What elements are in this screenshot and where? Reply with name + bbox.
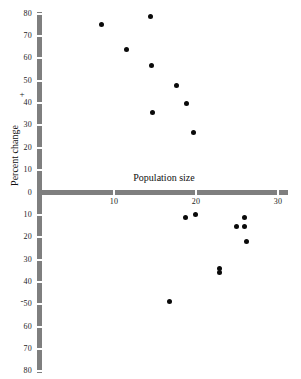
data-point xyxy=(242,215,247,220)
data-point xyxy=(217,270,222,275)
data-point xyxy=(148,14,153,19)
data-point xyxy=(234,224,239,229)
data-point xyxy=(193,212,198,217)
data-point xyxy=(167,299,172,304)
data-point xyxy=(99,22,104,27)
data-point xyxy=(242,224,247,229)
data-point xyxy=(174,83,179,88)
data-point xyxy=(149,63,154,68)
data-point xyxy=(184,101,189,106)
data-point xyxy=(124,47,129,52)
data-points-layer xyxy=(0,0,301,379)
data-point xyxy=(183,215,188,220)
data-point xyxy=(244,239,249,244)
data-point xyxy=(150,110,155,115)
data-point xyxy=(191,130,196,135)
scatter-chart: 807060504030201001020304050607080 102030… xyxy=(0,0,301,379)
